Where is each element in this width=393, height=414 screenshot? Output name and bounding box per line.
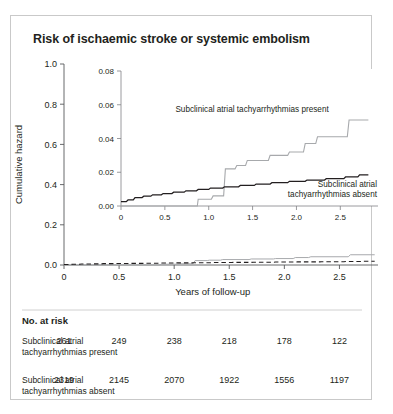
annotation-absent-line2: tachyarrhythmias absent — [288, 190, 378, 199]
risk-row-value: 218 — [222, 336, 237, 346]
risk-row-value: 1197 — [330, 375, 349, 385]
main-x-tick-label: 0 — [61, 272, 66, 282]
inset-x-tick-label: 1.5 — [247, 213, 259, 222]
main-curve-absent — [64, 261, 375, 264]
inset-x-tick-label: 1.0 — [203, 213, 215, 222]
main-y-tick-label: 0.0 — [44, 260, 57, 270]
risk-table: No. at riskSubclinical atrialtachyarrhyt… — [22, 310, 362, 396]
main-x-tick-label: 0.5 — [113, 272, 126, 282]
main-x-axis-title: Years of follow-up — [175, 286, 250, 297]
main-y-tick-label: 0.6 — [44, 140, 57, 150]
main-y-tick-label: 1.0 — [44, 59, 57, 69]
inset-x-tick-label: 2.5 — [335, 213, 347, 222]
main-y-tick-label: 0.8 — [44, 100, 57, 110]
main-y-tick-label: 0.4 — [44, 180, 57, 190]
main-curves — [64, 255, 375, 265]
main-x-tick-label: 2.0 — [278, 272, 291, 282]
risk-row-value: 122 — [332, 336, 347, 346]
inset-y-tick-label: 0.00 — [98, 202, 114, 211]
inset-y-tick-label: 0.04 — [98, 135, 114, 144]
inset-x-tick-label: 2.0 — [291, 213, 303, 222]
risk-row-value: 2070 — [164, 375, 184, 385]
risk-row-value: 2145 — [109, 375, 129, 385]
risk-row-value: 1556 — [274, 375, 294, 385]
risk-table-header: No. at risk — [22, 315, 69, 326]
inset-x-tick-label: 0 — [119, 213, 124, 222]
main-x-tick-label: 2.5 — [333, 272, 346, 282]
risk-row-value: 2319 — [54, 375, 74, 385]
inset-y-tick-label: 0.06 — [98, 101, 114, 110]
main-y-tick-label: 0.2 — [44, 220, 57, 230]
risk-row-value: 261 — [56, 336, 71, 346]
risk-row-label: tachyarrhythmias present — [22, 347, 118, 357]
risk-row-value: 178 — [277, 336, 292, 346]
main-x-tick-label: 1.5 — [223, 272, 236, 282]
risk-row-label: Subclinical atrial — [22, 375, 84, 385]
inset-x-tick-label: 0.5 — [159, 213, 171, 222]
risk-row-value: 1922 — [219, 375, 239, 385]
inset-y-tick-label: 0.02 — [98, 168, 114, 177]
risk-row-label: tachyarrhythmias absent — [22, 386, 115, 396]
annotation-present: Subclinical atrial tachyarrhythmias pres… — [175, 105, 329, 114]
risk-row-label: Subclinical atrial — [22, 336, 84, 346]
main-x-tick-label: 1.0 — [168, 272, 181, 282]
risk-row-value: 238 — [167, 336, 182, 346]
main-y-axis-title: Cumulative hazard — [13, 125, 24, 204]
risk-row-value: 249 — [112, 336, 127, 346]
inset-y-tick-label: 0.08 — [98, 67, 114, 76]
annotation-absent-line1: Subclinical atrial — [318, 180, 377, 189]
chart-canvas: 0.00.20.40.60.81.000.51.01.52.02.5Years … — [0, 0, 393, 414]
